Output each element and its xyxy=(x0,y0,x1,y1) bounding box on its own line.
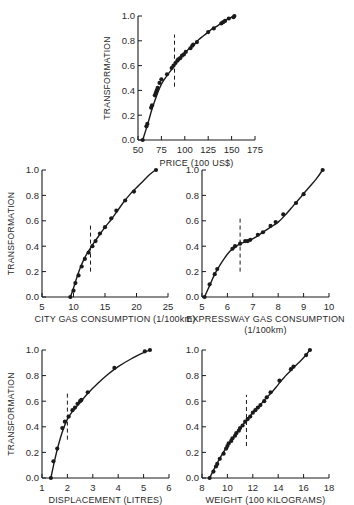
x-tick-label: 125 xyxy=(200,144,216,155)
x-tick-label: 2 xyxy=(65,482,70,493)
y-tick-label: 0.4 xyxy=(186,421,199,432)
data-point xyxy=(123,198,127,202)
data-point xyxy=(274,220,278,224)
x-tick-label: 6 xyxy=(166,482,171,493)
data-point xyxy=(63,420,67,424)
data-point xyxy=(112,366,116,370)
data-point xyxy=(268,224,272,228)
data-point xyxy=(184,50,188,54)
data-point xyxy=(206,30,210,34)
y-tick-label: 0.4 xyxy=(122,85,135,96)
x-tick-label: 4 xyxy=(116,482,121,493)
data-point xyxy=(238,242,242,246)
x-tick-label: 3 xyxy=(90,482,95,493)
y-tick-label: 0.2 xyxy=(26,447,39,458)
chart-displacement: 0.00.20.40.60.81.0123456DISPLACEMENT (LI… xyxy=(6,344,172,505)
data-point xyxy=(215,267,219,271)
data-point xyxy=(132,189,136,193)
data-point xyxy=(83,257,87,261)
data-point xyxy=(80,264,84,268)
data-point xyxy=(215,462,219,466)
x-tick-label: 150 xyxy=(224,144,240,155)
transformation-curve xyxy=(143,16,235,140)
data-point xyxy=(208,282,212,286)
data-point xyxy=(150,103,154,107)
y-tick-label: 1.0 xyxy=(122,10,135,21)
chart-price: 0.00.20.40.60.81.05075100125150175PRICE … xyxy=(102,10,263,168)
data-point xyxy=(248,238,252,242)
data-point xyxy=(60,426,64,430)
x-tick-label: 9 xyxy=(301,301,306,312)
x-tick-label: 20 xyxy=(131,301,142,312)
y-tick-label: 1.0 xyxy=(186,164,199,175)
data-point xyxy=(165,72,169,76)
data-point xyxy=(211,470,215,474)
data-point xyxy=(195,40,199,44)
data-point xyxy=(281,212,285,216)
data-point xyxy=(261,230,265,234)
x-axis-title: EXPRESSWAY GAS CONSUMPTION xyxy=(186,314,345,324)
data-point xyxy=(227,16,231,20)
data-point xyxy=(154,168,158,172)
data-point xyxy=(71,289,75,293)
y-tick-label: 0.0 xyxy=(26,291,39,302)
data-point xyxy=(159,77,163,81)
y-axis-title: TRANSFORMATION xyxy=(6,192,16,275)
x-tick-label: 12 xyxy=(248,482,259,493)
data-point xyxy=(157,81,161,85)
data-point xyxy=(212,26,216,30)
data-point xyxy=(248,414,252,418)
chart-city-gas-consumption: 0.00.20.40.60.81.0510152025CITY GAS CONS… xyxy=(6,164,195,324)
data-point xyxy=(145,122,149,126)
y-tick-label: 0.6 xyxy=(26,396,39,407)
transformation-curve xyxy=(210,350,310,478)
y-tick-label: 0.8 xyxy=(26,370,39,381)
x-tick-label: 7 xyxy=(250,301,255,312)
y-tick-label: 0.6 xyxy=(186,215,199,226)
data-point xyxy=(79,398,83,402)
data-point xyxy=(233,244,237,248)
data-point xyxy=(87,250,91,254)
data-point xyxy=(67,414,71,418)
data-point xyxy=(76,273,80,277)
x-tick-label: 5 xyxy=(39,301,44,312)
x-tick-label: 14 xyxy=(273,482,284,493)
data-point xyxy=(265,395,269,399)
data-point xyxy=(221,452,225,456)
x-tick-label: 5 xyxy=(199,301,204,312)
y-tick-label: 0.8 xyxy=(186,370,199,381)
transformation-curve xyxy=(70,170,155,297)
data-point xyxy=(268,390,272,394)
data-point xyxy=(90,244,94,248)
x-tick-label: 5 xyxy=(141,482,146,493)
data-point xyxy=(223,19,227,23)
y-tick-label: 0.4 xyxy=(186,241,199,252)
chart-weight: 0.00.20.40.60.81.081012141618WEIGHT (100… xyxy=(186,344,335,505)
y-tick-label: 0.4 xyxy=(26,421,39,432)
x-tick-label: 10 xyxy=(68,301,79,312)
data-point xyxy=(86,390,90,394)
x-axis-title: DISPLACEMENT (LITRES) xyxy=(48,495,162,505)
x-tick-label: 25 xyxy=(163,301,174,312)
y-tick-label: 0.6 xyxy=(26,215,39,226)
y-tick-label: 0.2 xyxy=(186,266,199,277)
x-tick-label: 8 xyxy=(276,301,281,312)
data-point xyxy=(103,225,107,229)
data-point xyxy=(213,272,217,276)
data-point xyxy=(93,239,97,243)
y-tick-label: 0.0 xyxy=(186,472,199,483)
data-point xyxy=(321,168,325,172)
y-tick-label: 0.2 xyxy=(122,110,135,121)
data-point xyxy=(191,42,195,46)
x-axis-title: WEIGHT (100 KILOGRAMS) xyxy=(206,495,326,505)
y-tick-label: 1.0 xyxy=(186,344,199,355)
data-point xyxy=(55,446,59,450)
data-point xyxy=(208,476,212,480)
x-tick-label: 1 xyxy=(39,482,44,493)
figure-canvas: 0.00.20.40.60.81.05075100125150175PRICE … xyxy=(0,0,354,505)
data-point xyxy=(148,348,152,352)
x-axis-title-units: (1/100km) xyxy=(244,325,286,335)
data-point xyxy=(308,348,312,352)
y-tick-label: 0.2 xyxy=(186,447,199,458)
x-tick-label: 100 xyxy=(177,144,193,155)
